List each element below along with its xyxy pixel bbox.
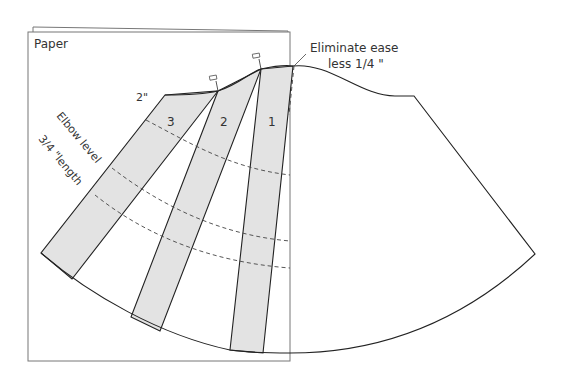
strip-label-2: 2 — [220, 115, 228, 129]
strip-label-1: 1 — [268, 115, 276, 129]
sleeve-right-outline — [290, 66, 535, 353]
paper-label: Paper — [34, 37, 68, 51]
annotation-leader — [294, 54, 306, 66]
strip-label-3: 3 — [167, 115, 175, 129]
two-inch-label: 2" — [136, 91, 148, 104]
annotation-less-quarter: less 1/4 " — [328, 57, 384, 71]
sleeve-slash-spread-diagram: Paper 2" Eliminate ease less 1/4 " Elbow… — [0, 0, 567, 373]
annotation-eliminate-ease: Eliminate ease — [310, 41, 399, 55]
